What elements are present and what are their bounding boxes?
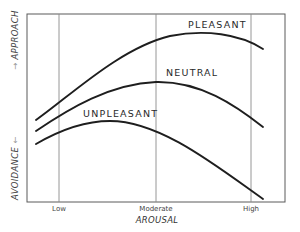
tick-moderate: Moderate [139,205,172,213]
arrow-up-icon: → [10,63,20,70]
curve-unpleasant [36,121,263,199]
label-neutral: NEUTRAL [166,67,218,78]
avoidance-label: AVOIDANCE [10,147,20,200]
y-axis-label-approach: → APPROACH [10,10,20,70]
x-axis-label: AROUSAL [136,215,179,225]
label-unpleasant: UNPLEASANT [83,108,158,119]
tick-high: High [243,205,259,213]
approach-label: APPROACH [10,10,20,59]
label-pleasant: PLEASANT [188,19,247,30]
arrow-down-icon: ← [10,136,20,143]
tick-low: Low [52,205,66,213]
curve-pleasant [36,33,263,120]
y-axis-label-avoidance: AVOIDANCE ← [10,136,20,200]
curve-neutral [36,82,263,131]
